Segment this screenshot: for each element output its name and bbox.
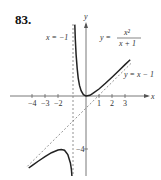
x-tick-label: −2 (54, 99, 63, 108)
x-axis-arrow-icon (144, 94, 150, 98)
function-label-denominator: x + 1 (118, 39, 136, 48)
function-label-numerator: x² (123, 28, 131, 37)
y-tick-label: −4 (76, 145, 85, 154)
function-label-lhs: y = (99, 33, 111, 42)
slant-asymptote-label: y = x − 1 (123, 70, 154, 79)
x-axis-label: x (150, 92, 155, 101)
x-tick-label: 1 (97, 99, 101, 108)
graph: −4 −3 −2 1 2 3 −4 x y x = −1 y = x² x + … (0, 0, 161, 180)
x-tick-label: −4 (28, 99, 37, 108)
y-axis-arrow-icon (84, 22, 88, 28)
curve-left-branch (29, 149, 72, 176)
x-tick-label: 2 (110, 99, 114, 108)
y-axis-label: y (83, 12, 88, 21)
vertical-asymptote-label: x = −1 (45, 33, 68, 42)
x-tick-label: −3 (41, 99, 50, 108)
x-tick-label: 3 (123, 99, 127, 108)
